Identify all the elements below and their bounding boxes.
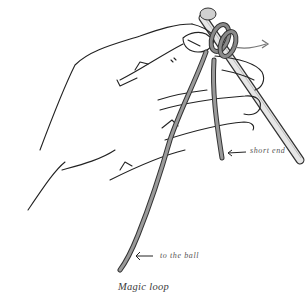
arrow-left-icon xyxy=(228,150,246,156)
arrow-left-icon xyxy=(136,252,153,260)
magic-loop-figure: short end to the ball Magic loop xyxy=(0,0,307,297)
yarn-icon xyxy=(120,22,239,270)
short-end-label: short end xyxy=(250,146,285,155)
to-the-ball-label: to the ball xyxy=(160,251,199,260)
caption-text: Magic loop xyxy=(118,281,169,292)
figure-caption: Magic loop xyxy=(0,281,307,292)
